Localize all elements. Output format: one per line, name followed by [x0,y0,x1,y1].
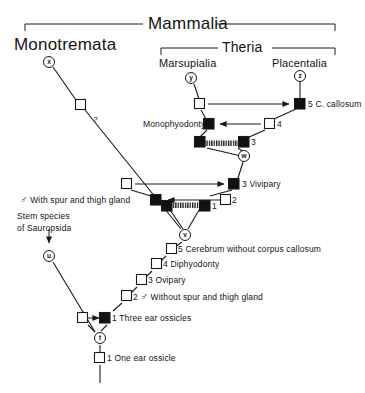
ground-plan-item-3: 3 Ovipary [148,276,186,285]
node-open-state-4 [152,259,162,269]
ground-plan-item-4: 4 Diphyodonty [163,260,219,269]
node-letter-v: v [180,232,190,239]
character-label-state-4-theria: 4 [277,120,282,129]
node-filled-1-right [200,201,211,212]
ground-plan-item-1: 1 Three ear ossicles [112,314,191,323]
node-letter-u: u [44,253,54,260]
node-open-state-5 [167,244,177,254]
taxon-label-placentalia: Placentalia [272,58,327,69]
ground-plan-text-2: Without spur and thigh gland [151,292,263,302]
node-filled-3-left [195,137,206,148]
ground-plan-num-3: 3 [148,275,153,285]
ground-plan-num-1: 1 [112,313,117,323]
cladogram-figure: Mammalia Theria Monotremata Marsupialia … [0,0,365,393]
ground-plan-item-5: 5 Cerebrum without corpus callosum [178,245,321,254]
node-filled-3-right [239,137,250,148]
node-letter-w: w [239,153,249,160]
ground-plan-num-4: 4 [163,259,168,269]
ground-plan-num-5: 5 [178,244,183,254]
root-state-num: 1 [107,353,112,363]
ground-plan-text-3: Ovipary [155,275,185,285]
character-label-vivipary: 3 Vivipary [242,180,281,189]
node-filled-vivipary [229,179,240,190]
root-state-label: 1 One ear ossicle [107,354,176,363]
character-label-with-spur-gland: ♂ With spur and thigh gland [20,195,130,205]
uncertainty-question-mark: ? [93,116,97,124]
node-filled-state-1 [100,313,111,324]
node-open-state-3 [137,275,147,285]
taxon-label-monotremata: Monotremata [14,36,116,53]
ground-plan-num-2: 2 [133,292,138,302]
ground-plan-text-4: Diphyodonty [170,259,219,269]
stem-species-line2: of Sauropsida [17,224,71,233]
node-open-monotremata [76,100,86,110]
taxon-label-marsupialia: Marsupialia [159,58,216,69]
node-open-marsupialia-5 [195,99,205,109]
node-open-2 [221,195,231,205]
clade-label-mammalia: Mammalia [148,15,228,32]
node-letter-z: z [295,73,305,80]
ground-plan-text-5: Cerebrum without corpus callosum [185,244,321,254]
stem-species-line1: Stem species [17,212,70,221]
node-letter-t: t [95,335,105,342]
ground-plan-item-2: 2 ♂ Without spur and thigh gland [133,292,263,302]
node-open-root-one-ossicle [95,353,105,363]
node-open-4 [265,119,275,129]
node-filled-spur-gland [151,195,162,206]
node-letter-x: x [44,59,54,66]
character-label-state-1-theria: 1 [212,202,217,211]
male-symbol-icon-2: ♂ [140,291,148,302]
ground-plan-text-1: Three ear ossicles [119,313,191,323]
node-open-state-2 [122,291,132,301]
node-filled-1-left [162,201,173,212]
character-label-monophyodonty: Monophyodonty [143,120,205,129]
character-label-corpus-callosum: 5 C. callosum [308,100,361,109]
node-filled-corpus-callosum [295,99,306,110]
with-spur-gland-text: With spur and thigh gland [30,195,130,205]
root-state-text: One ear ossicle [114,353,175,363]
tree-edges [53,67,300,383]
male-symbol-icon: ♂ [20,194,28,205]
character-label-state-2-theria: 2 [232,196,237,205]
character-label-state-3-theria: 3 [251,138,256,147]
node-open-one-ossicle-source [78,313,88,323]
node-letter-y: y [186,75,196,82]
node-open-theria-left [122,179,132,189]
clade-label-theria: Theria [222,40,262,54]
